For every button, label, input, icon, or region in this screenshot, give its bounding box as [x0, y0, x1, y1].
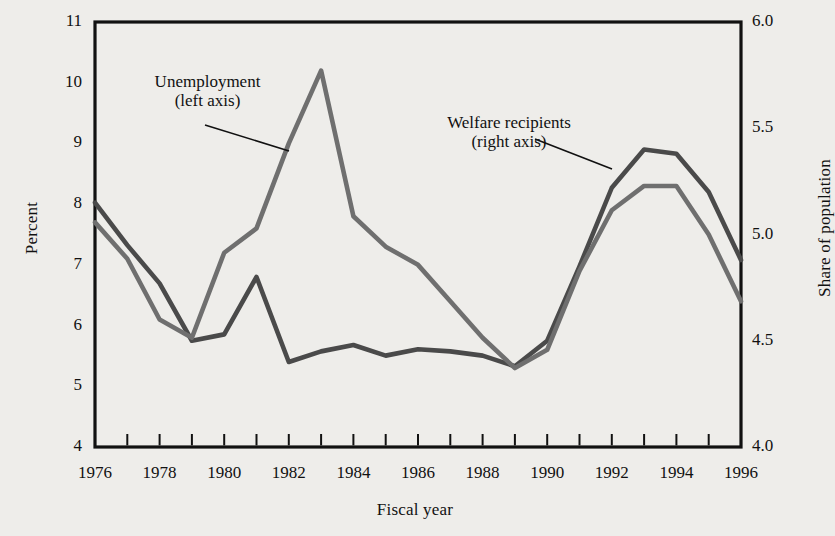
x-axis-tick-label: 1992 [582, 463, 642, 483]
x-axis-tick-label: 1994 [646, 463, 706, 483]
x-axis-tick-label: 1988 [453, 463, 513, 483]
x-axis-tick-label: 1986 [388, 463, 448, 483]
y-axis-left-tick-label: 4 [42, 436, 82, 456]
unemployment-annotation: Unemployment (left axis) [100, 72, 315, 110]
x-axis-tick-label: 1976 [65, 463, 125, 483]
y-axis-left-tick-label: 5 [42, 375, 82, 395]
y-axis-right-title: Share of population [815, 138, 835, 318]
y-axis-left-title: Percent [22, 168, 42, 288]
y-axis-right-tick-label: 4.5 [752, 330, 798, 350]
y-axis-right-tick-label: 5.5 [752, 117, 798, 137]
x-axis-tick-label: 1982 [259, 463, 319, 483]
x-axis-ticks [95, 434, 741, 445]
x-axis-tick-label: 1990 [517, 463, 577, 483]
x-axis-tick-label: 1996 [711, 463, 771, 483]
y-axis-left-tick-label: 7 [42, 254, 82, 274]
y-axis-left-tick-label: 11 [42, 11, 82, 31]
x-axis-tick-label: 1980 [194, 463, 254, 483]
welfare-annotation-line2: (right axis) [398, 132, 620, 151]
y-axis-left-tick-label: 10 [42, 72, 82, 92]
y-axis-right-tick-label: 4.0 [752, 436, 798, 456]
unemployment-annotation-line1: Unemployment [100, 72, 315, 91]
x-axis-tick-label: 1978 [130, 463, 190, 483]
welfare-annotation-line1: Welfare recipients [398, 113, 620, 132]
y-axis-left-tick-label: 6 [42, 315, 82, 335]
x-axis-title: Fiscal year [0, 500, 830, 520]
x-axis-tick-label: 1984 [323, 463, 383, 483]
unemployment-leader-line [205, 125, 289, 151]
unemployment-annotation-line2: (left axis) [100, 91, 315, 110]
y-axis-right-tick-label: 5.0 [752, 224, 798, 244]
y-axis-left-tick-label: 8 [42, 193, 82, 213]
welfare-annotation: Welfare recipients (right axis) [398, 113, 620, 151]
y-axis-left-tick-label: 9 [42, 132, 82, 152]
y-axis-right-tick-label: 6.0 [752, 11, 798, 31]
